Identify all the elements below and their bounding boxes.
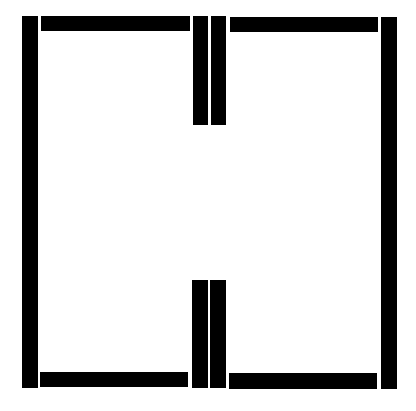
bottom-middle-bar-left [192, 280, 208, 388]
left-vertical-bar [22, 16, 38, 388]
bottom-middle-bar-right [210, 280, 226, 388]
top-left-horizontal-bar [41, 16, 190, 31]
bottom-right-horizontal-bar [229, 373, 377, 389]
top-middle-bar-right [211, 16, 226, 125]
top-middle-bar-left [193, 16, 208, 125]
bottom-left-horizontal-bar [40, 372, 188, 387]
top-right-horizontal-bar [230, 17, 378, 32]
right-vertical-bar [381, 17, 397, 389]
